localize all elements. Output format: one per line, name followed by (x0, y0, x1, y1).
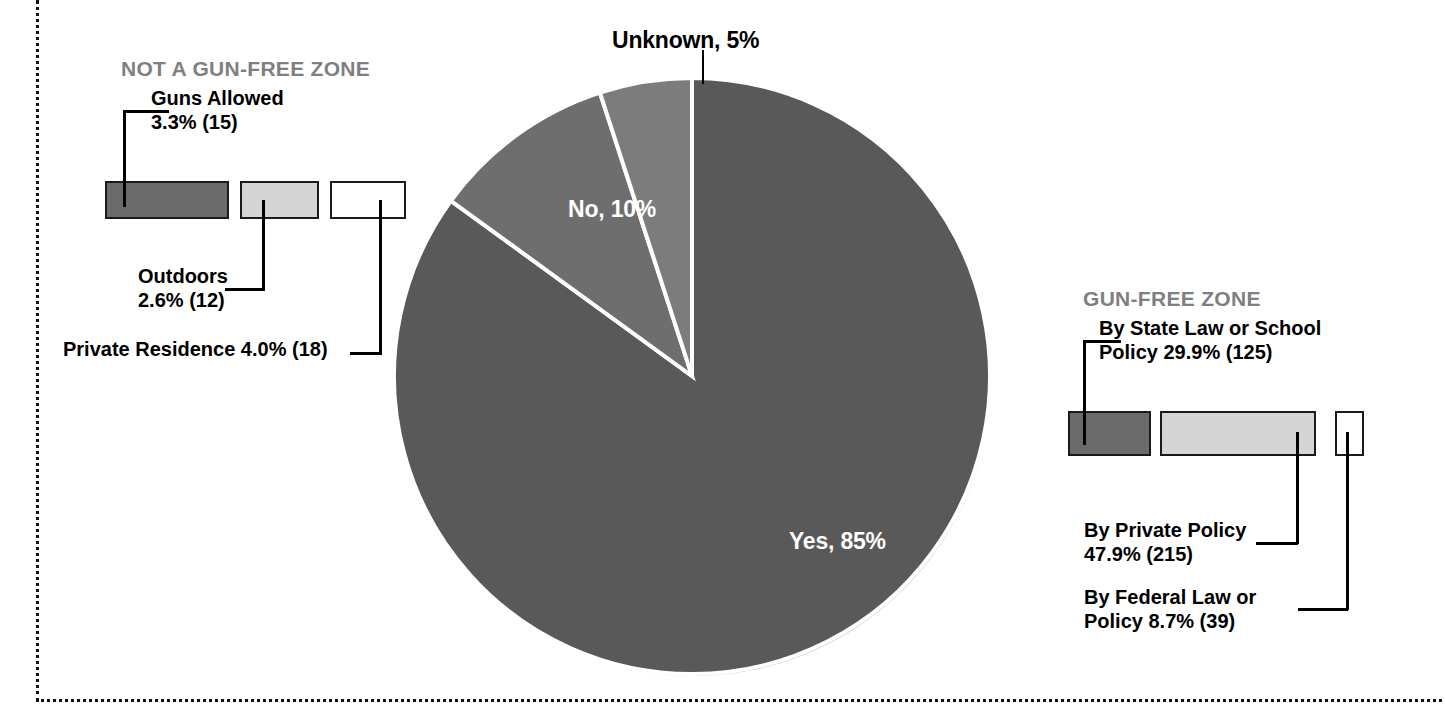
leader-line-unknown (702, 50, 704, 84)
leader-line-by-federal-law-horizontal (1298, 608, 1348, 611)
pie-label-unknown: Unknown, 5% (612, 27, 759, 54)
legend-label-guns-allowed-line2: 3.3% (15) (151, 110, 284, 134)
legend-bar-private-residence (330, 181, 406, 219)
legend-label-by-federal-law-line1: By Federal Law or (1084, 585, 1256, 609)
pie-chart (392, 76, 992, 676)
legend-label-by-federal-law: By Federal Law or Policy 8.7% (39) (1084, 585, 1256, 633)
legend-label-by-state-law-line2: Policy 29.9% (125) (1099, 340, 1321, 364)
leader-line-by-private-policy-horizontal (1256, 542, 1298, 545)
legend-label-by-private-policy-line2: 47.9% (215) (1084, 542, 1246, 566)
legend-label-guns-allowed-line1: Guns Allowed (151, 86, 284, 110)
leader-line-outdoors-vertical (262, 200, 265, 290)
legend-bar-by-federal-law (1335, 411, 1364, 456)
legend-label-outdoors: Outdoors 2.6% (12) (138, 264, 228, 312)
pie-label-no: No, 10% (568, 196, 656, 223)
leader-line-by-private-policy-vertical (1296, 432, 1299, 544)
leader-line-guns-allowed-vertical (123, 110, 126, 207)
legend-bar-by-private-policy (1160, 411, 1316, 456)
legend-bar-outdoors (240, 181, 319, 219)
leader-line-guns-allowed-horizontal (123, 110, 169, 113)
legend-label-by-state-law-line1: By State Law or School (1099, 316, 1321, 340)
legend-heading-not-gun-free-zone: NOT A GUN-FREE ZONE (121, 57, 370, 81)
legend-label-outdoors-line1: Outdoors (138, 264, 228, 288)
legend-label-guns-allowed: Guns Allowed 3.3% (15) (151, 86, 284, 134)
legend-heading-gun-free-zone: GUN-FREE ZONE (1083, 287, 1261, 311)
dotted-border-left (36, 0, 39, 702)
legend-bar-by-state-law (1068, 411, 1151, 456)
leader-line-private-residence-horizontal (350, 352, 382, 355)
leader-line-outdoors-horizontal (225, 288, 265, 291)
pie-label-yes: Yes, 85% (789, 528, 886, 555)
legend-label-by-state-law: By State Law or School Policy 29.9% (125… (1099, 316, 1321, 364)
chart-canvas: Yes, 85% No, 10% Unknown, 5% NOT A GUN-F… (0, 0, 1445, 707)
leader-line-by-state-law-vertical (1083, 340, 1086, 445)
dotted-border-bottom (36, 699, 1442, 702)
leader-line-by-federal-law-vertical (1346, 432, 1349, 610)
legend-label-by-federal-law-line2: Policy 8.7% (39) (1084, 609, 1256, 633)
legend-label-outdoors-line2: 2.6% (12) (138, 288, 228, 312)
leader-line-private-residence-vertical (379, 200, 382, 354)
leader-line-by-state-law-horizontal (1083, 340, 1121, 343)
legend-label-private-residence: Private Residence 4.0% (18) (63, 337, 328, 361)
legend-label-by-private-policy-line1: By Private Policy (1084, 518, 1246, 542)
legend-label-by-private-policy: By Private Policy 47.9% (215) (1084, 518, 1246, 566)
